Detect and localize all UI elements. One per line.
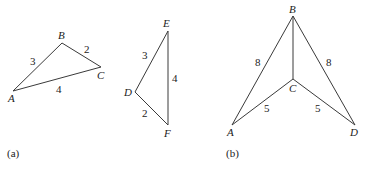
vertex-label-c2: C bbox=[289, 82, 297, 94]
edge-label-ac: 4 bbox=[56, 83, 62, 95]
edge-bc bbox=[62, 43, 101, 67]
edge-label-ab-b: 8 bbox=[255, 56, 261, 68]
diagram-canvas: A B C 3 2 4 D E F 3 4 2 (a) A B C D 8 8 … bbox=[0, 0, 374, 171]
edge-label-de: 3 bbox=[142, 49, 148, 61]
edge-ac-b bbox=[232, 79, 293, 125]
edge-cd-b bbox=[293, 79, 355, 125]
edge-label-bc: 2 bbox=[84, 43, 90, 55]
vertex-label-d1: D bbox=[123, 86, 132, 98]
edge-label-ab: 3 bbox=[30, 55, 36, 67]
caption-a: (a) bbox=[7, 147, 20, 160]
edge-label-ef: 4 bbox=[172, 72, 178, 84]
edge-bd-b bbox=[293, 16, 355, 125]
edge-df bbox=[135, 92, 168, 125]
vertex-label-a1: A bbox=[7, 92, 15, 104]
vertex-label-a2: A bbox=[226, 126, 234, 138]
edge-label-df: 2 bbox=[142, 107, 148, 119]
vertex-label-f1: F bbox=[163, 127, 171, 139]
caption-b: (b) bbox=[226, 147, 239, 160]
figure-b-shape: A B C D 8 8 5 5 bbox=[226, 3, 358, 138]
triangle-def: D E F 3 4 2 bbox=[123, 17, 178, 139]
edge-de bbox=[135, 31, 168, 92]
vertex-label-b2: B bbox=[289, 3, 296, 15]
vertex-label-c1: C bbox=[97, 69, 105, 81]
triangle-abc: A B C 3 2 4 bbox=[7, 29, 105, 104]
vertex-label-d2: D bbox=[349, 126, 358, 138]
vertex-label-b1: B bbox=[58, 29, 65, 41]
edge-label-cd-b: 5 bbox=[315, 102, 321, 114]
edge-label-bd-b: 8 bbox=[326, 56, 332, 68]
edge-label-ac-b: 5 bbox=[264, 102, 270, 114]
edge-ab-b bbox=[232, 16, 293, 125]
vertex-label-e1: E bbox=[162, 17, 170, 29]
